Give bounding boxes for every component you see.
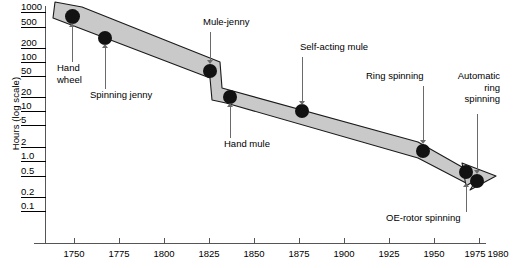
leader-line-hand-mule <box>230 106 231 138</box>
annotation-self-acting-mule: Self-acting mule <box>300 41 368 53</box>
annotation-mule-jenny: Mule-jenny <box>203 16 249 28</box>
data-point-hand-wheel <box>65 9 80 24</box>
leader-arrow-mule-jenny <box>207 60 213 64</box>
data-point-ring-spinning <box>416 144 430 158</box>
annotation-hand-wheel: Hand wheel <box>57 62 82 85</box>
leader-arrow-automatic-ring-spinning <box>474 170 480 174</box>
leader-line-automatic-ring-spinning <box>477 114 478 172</box>
leader-line-oe-rotor-spinning <box>466 186 467 212</box>
leader-arrow-ring-spinning <box>420 140 426 144</box>
leader-arrow-hand-mule <box>227 103 233 107</box>
data-point-self-acting-mule <box>295 104 309 118</box>
data-point-spinning-jenny <box>98 31 112 45</box>
data-point-hand-mule <box>223 90 237 104</box>
leader-arrow-oe-rotor-spinning <box>463 183 469 187</box>
leader-arrow-self-acting-mule <box>299 101 305 105</box>
annotation-automatic-line3: spinning <box>394 93 500 105</box>
leader-line-mule-jenny <box>210 32 211 62</box>
leader-arrow-spinning-jenny <box>102 44 108 48</box>
annotation-oe-rotor-spinning: OE-rotor spinning <box>386 212 460 224</box>
annotation-hand-mule: Hand mule <box>224 138 270 150</box>
annotation-automatic-ring-spinning: Automatic ring spinning <box>394 70 500 105</box>
annotation-spinning-jenny: Spinning jenny <box>90 89 152 101</box>
data-point-automatic-ring-spinning <box>470 174 484 188</box>
annotation-automatic-line1: Automatic <box>394 70 500 82</box>
data-point-mule-jenny <box>203 64 217 78</box>
leader-arrow-hand-wheel <box>69 23 75 27</box>
leader-line-spinning-jenny <box>105 47 106 89</box>
leader-line-hand-wheel <box>72 26 73 62</box>
annotation-automatic-line2: ring <box>394 82 500 94</box>
annotation-hand-wheel-line1: Hand <box>57 62 82 74</box>
leader-line-self-acting-mule <box>302 57 303 103</box>
annotation-hand-wheel-line2: wheel <box>57 74 82 86</box>
